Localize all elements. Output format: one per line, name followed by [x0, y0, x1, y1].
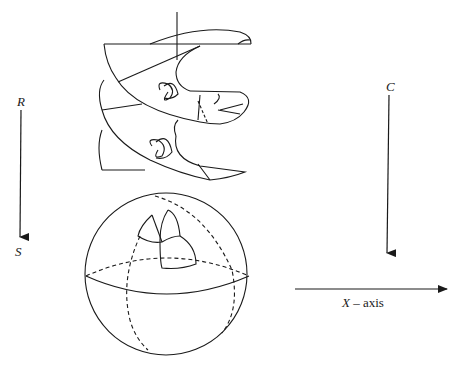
figure: R S C X – axis [0, 0, 463, 369]
x-axis-label: X – axis [342, 296, 384, 309]
label-s: S [15, 245, 22, 258]
figure-drawing [0, 0, 463, 369]
x-axis-text: – axis [350, 295, 384, 310]
c-arrow [387, 95, 389, 253]
sphere [85, 193, 249, 355]
helicoid-surface [99, 12, 251, 180]
label-c: C [386, 80, 395, 93]
label-r: R [17, 95, 25, 108]
r-to-s-arrow [20, 110, 21, 237]
x-axis-variable: X [342, 295, 350, 310]
